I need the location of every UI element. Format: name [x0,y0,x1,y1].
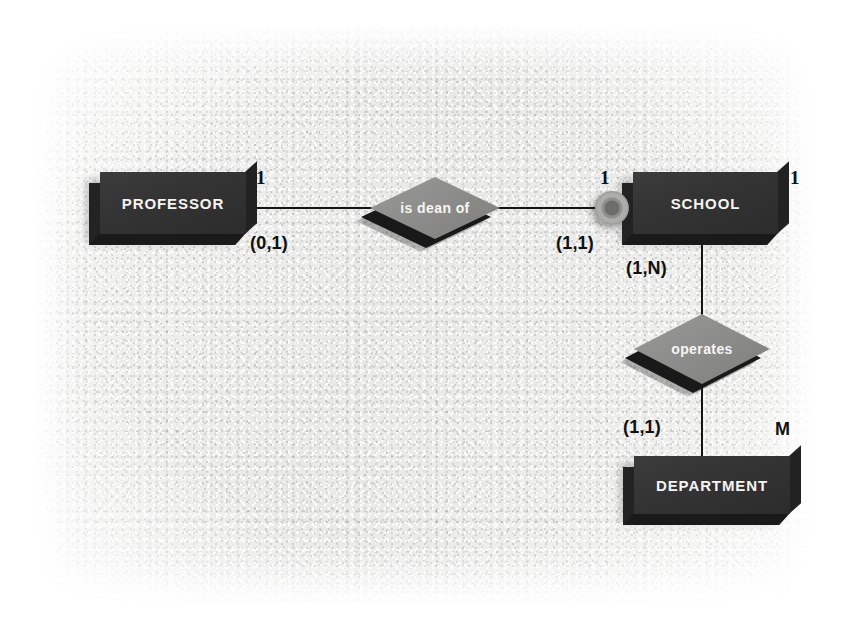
line-is-dean-of-to-school [496,207,608,209]
cardinality-school-right-max: 1 [790,167,800,189]
relationship-is-dean-of-label: is dean of [370,177,500,239]
ring-connector-icon [595,191,629,225]
entity-professor-label: PROFESSOR [122,195,224,212]
cardinality-professor-side-max: 1 [256,167,266,189]
entity-department[interactable]: DEPARTMENT [634,456,790,514]
cardinality-school-down-minmax: (1,N) [626,258,667,279]
school-right-edge [777,161,789,234]
department-right-edge [789,445,801,514]
relationship-operates[interactable]: operates [634,314,770,384]
school-bottom-edge [622,233,778,245]
cardinality-school-left-minmax: (1,1) [556,233,594,254]
cardinality-department-max: M [775,419,790,440]
professor-face: PROFESSOR [100,172,246,234]
line-professor-to-is-dean-of [246,207,374,209]
entity-professor[interactable]: PROFESSOR [100,172,246,234]
cardinality-professor-side-minmax: (0,1) [250,233,288,254]
line-operates-to-department [701,384,703,456]
diagram-stage: PROFESSOR SCHOOL DEPARTMENT [0,0,845,632]
entity-school[interactable]: SCHOOL [633,172,778,234]
entity-school-label: SCHOOL [671,195,741,212]
department-face: DEPARTMENT [634,456,790,514]
relationship-is-dean-of[interactable]: is dean of [370,177,500,239]
professor-bottom-edge [89,233,246,245]
cardinality-school-left-max: 1 [600,167,610,189]
entity-department-label: DEPARTMENT [656,477,768,494]
er-diagram-canvas: PROFESSOR SCHOOL DEPARTMENT [0,0,845,632]
relationship-operates-label: operates [634,314,770,384]
department-bottom-edge [623,513,790,525]
line-school-to-operates [701,240,703,316]
cardinality-department-up-minmax: (1,1) [623,417,661,438]
school-face: SCHOOL [633,172,778,234]
